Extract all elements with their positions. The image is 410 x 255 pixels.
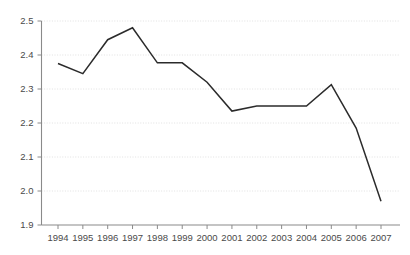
- y-tick-label: 2.2: [20, 117, 33, 128]
- y-tick-label: 2.5: [20, 15, 33, 26]
- x-tick-label: 2000: [197, 232, 218, 243]
- y-tick-label: 2.4: [20, 49, 33, 60]
- x-tick-label: 1995: [72, 232, 93, 243]
- y-tick-label: 1.9: [20, 219, 33, 230]
- x-tick-label: 1999: [172, 232, 193, 243]
- x-tick-label: 2002: [246, 232, 267, 243]
- x-tick-label: 1998: [147, 232, 168, 243]
- chart-background: [0, 0, 410, 255]
- x-tick-label: 2001: [221, 232, 242, 243]
- chart-canvas: 1.92.02.12.22.32.42.5 199419951996199719…: [0, 0, 410, 255]
- line-chart: 1.92.02.12.22.32.42.5 199419951996199719…: [0, 0, 410, 255]
- y-tick-label: 2.3: [20, 83, 33, 94]
- x-tick-label: 1997: [122, 232, 143, 243]
- x-tick-label: 1994: [47, 232, 68, 243]
- x-tick-label: 2005: [321, 232, 342, 243]
- x-tick-label: 2003: [271, 232, 292, 243]
- x-tick-label: 2007: [370, 232, 391, 243]
- x-tick-label: 2004: [296, 232, 317, 243]
- x-tick-label: 2006: [346, 232, 367, 243]
- y-tick-label: 2.0: [20, 185, 33, 196]
- y-tick-label: 2.1: [20, 151, 33, 162]
- x-tick-label: 1996: [97, 232, 118, 243]
